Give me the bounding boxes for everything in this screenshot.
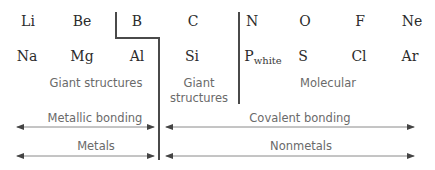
label-giant-structures-metallic: Giant structures bbox=[50, 76, 143, 91]
element-f: F bbox=[355, 14, 365, 28]
element-o: O bbox=[299, 14, 310, 28]
element-ne: Ne bbox=[402, 14, 423, 28]
element-n: N bbox=[246, 14, 258, 28]
bonding-diagram: Li Be B C N O F Ne Na Mg Al Si Pwhite S … bbox=[0, 0, 435, 170]
element-li: Li bbox=[21, 14, 35, 28]
element-b: B bbox=[132, 14, 142, 28]
label-metals: Metals bbox=[77, 141, 115, 153]
element-ar: Ar bbox=[402, 49, 419, 63]
element-si: Si bbox=[185, 49, 199, 63]
element-al: Al bbox=[130, 49, 145, 63]
element-s: S bbox=[298, 49, 308, 63]
element-c: C bbox=[188, 14, 199, 28]
element-cl: Cl bbox=[351, 49, 366, 63]
label-giant-line1: Giant bbox=[170, 76, 228, 91]
element-na: Na bbox=[17, 49, 38, 63]
label-giant-structures-covalent: Giant structures bbox=[170, 76, 228, 106]
element-p-symbol: P bbox=[244, 48, 253, 64]
element-mg: Mg bbox=[70, 49, 93, 63]
element-p-white: Pwhite bbox=[244, 49, 282, 66]
label-nonmetals: Nonmetals bbox=[270, 141, 332, 153]
element-be: Be bbox=[73, 14, 92, 28]
element-p-subscript: white bbox=[254, 55, 282, 66]
label-covalent-bonding: Covalent bonding bbox=[249, 113, 350, 125]
label-molecular: Molecular bbox=[300, 76, 356, 91]
label-giant-line2: structures bbox=[170, 91, 228, 106]
label-metallic-bonding: Metallic bonding bbox=[48, 113, 143, 125]
